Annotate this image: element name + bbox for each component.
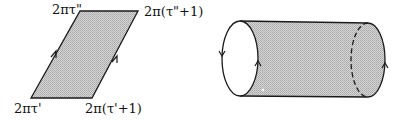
- label-bottom-left: 2πτ': [14, 101, 42, 116]
- cylinder-figure: [219, 21, 388, 97]
- cylinder-left-end: [222, 21, 258, 96]
- parallelogram: [31, 11, 138, 98]
- label-bottom-right: 2π(τ'+1): [85, 101, 142, 116]
- label-top-left: 2πτ": [52, 2, 82, 17]
- torus-diagram: 2πτ" 2π(τ"+1) 2πτ' 2π(τ'+1): [0, 0, 402, 120]
- highlight-dot: [262, 89, 265, 92]
- parallelogram-figure: 2πτ" 2π(τ"+1) 2πτ' 2π(τ'+1): [14, 2, 203, 116]
- label-top-right: 2π(τ"+1): [144, 4, 203, 19]
- cylinder-body: [240, 21, 385, 97]
